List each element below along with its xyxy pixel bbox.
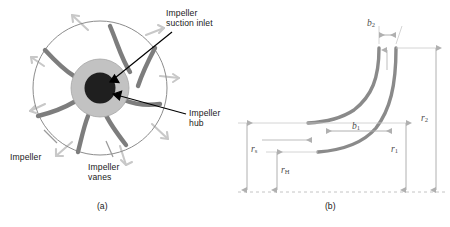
callout-impeller-vanes: Impeller vanes: [88, 162, 119, 182]
panel-b-caption: (b): [325, 201, 336, 211]
dimension-label-rs: rs: [251, 143, 257, 154]
callout-impeller-hub: Impeller hub: [189, 108, 220, 128]
panel-a-caption: (a): [97, 201, 108, 211]
dimension-label-rs-sub: s: [255, 147, 258, 154]
dimension-label-r1-sub: 1: [395, 147, 398, 154]
dimension-label-b1-sub: 1: [357, 124, 360, 131]
callout-impeller: Impeller: [10, 152, 41, 162]
dimension-label-b2-sub: 2: [372, 21, 375, 28]
hub-curve: [318, 48, 396, 152]
dimension-label-b2: b2: [367, 17, 375, 28]
dimension-label-rH-sub: H: [285, 168, 290, 175]
dimension-label-b1: b1: [352, 120, 360, 131]
dimension-label-rH: rH: [281, 164, 290, 175]
impeller-figure: Impeller suction inlet Impeller hub Impe…: [0, 0, 450, 227]
impeller-suction-inlet-circle: [85, 73, 116, 104]
meridional-profile-curves: [308, 48, 396, 152]
callout-impeller-suction-inlet: Impeller suction inlet: [166, 8, 213, 28]
panel-b-drawing: [230, 0, 450, 227]
dimension-label-r1: r1: [391, 143, 398, 154]
dimension-label-r2-sub: 2: [425, 116, 428, 123]
shroud-curve: [308, 48, 379, 123]
dimension-label-r2: r2: [421, 112, 428, 123]
